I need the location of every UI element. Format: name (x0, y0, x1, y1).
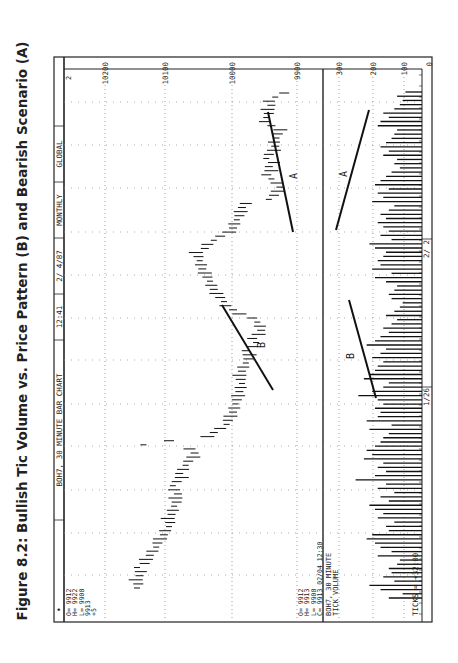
ohlc-readout-line: +5 (90, 608, 98, 616)
header-cell-3: MONTHLY (55, 194, 64, 226)
header-cell-1: 12:41 (55, 306, 64, 329)
volume-tick-label: 100 (400, 62, 409, 76)
close-readout-line: C= 9913 02/04 12:30 (316, 542, 324, 616)
chart: BOH7, 30 MINUTE BAR CHART12:412/ 4/87MON… (0, 0, 458, 663)
price-tick-label: 10100 (161, 62, 170, 85)
annotation-b-price: B (256, 342, 267, 348)
bullet-marker: • (55, 607, 64, 612)
volume-caption-line: TICK VOLUME (332, 570, 340, 616)
trendline-a-volume (336, 110, 369, 230)
price-tick-label: 10000 (228, 62, 237, 85)
date-label: 1/26 (422, 387, 431, 406)
volume-tick-label: 200 (369, 62, 378, 76)
annotation-b-volume: B (345, 353, 356, 359)
trendline-b-volume (349, 300, 376, 398)
header-cell-0: BOH7, 30 MINUTE BAR CHART (55, 373, 64, 486)
annotation-a-volume: A (338, 171, 349, 177)
header-cell-4: GLOBAL (55, 140, 64, 168)
annotation-a-price: A (288, 173, 299, 179)
volume-tick-label: 300 (335, 62, 344, 76)
corner-marker: 2 (65, 76, 73, 80)
ticks-label: TICKS = +32:00 (411, 552, 420, 616)
date-label: 2/ 2 (422, 240, 431, 258)
price-tick-label: 9900 (293, 62, 302, 81)
header-cell-2: 2/ 4/87 (55, 250, 64, 282)
volume-tick-label: 0 (425, 62, 434, 67)
price-tick-label: 10200 (101, 62, 110, 85)
